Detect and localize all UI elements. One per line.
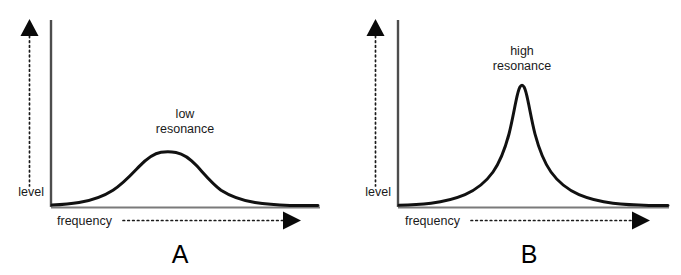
- curve-annotation-a-line1: low: [176, 107, 195, 121]
- curve-annotation-b-line2: resonance: [493, 59, 551, 73]
- resonance-curve-b: [399, 85, 668, 205]
- curve-annotation-a: lowresonance: [125, 107, 245, 137]
- y-axis-arrowhead-a: [21, 19, 39, 36]
- panel-b: level frequency highresonance B: [341, 0, 681, 275]
- y-axis-label-b: level: [347, 185, 391, 200]
- y-axis-label-a: level: [2, 185, 44, 200]
- panel-letter-b: B: [499, 240, 559, 270]
- x-axis-arrowhead-a: [283, 212, 301, 230]
- curve-annotation-b-line1: high: [510, 44, 534, 58]
- x-axis-arrowhead-b: [632, 212, 650, 230]
- curve-annotation-b: highresonance: [462, 44, 582, 74]
- y-axis-arrowhead-b: [367, 19, 385, 36]
- x-axis-label-b: frequency: [405, 214, 460, 229]
- panel-a: level frequency lowresonance A: [0, 0, 340, 275]
- panel-letter-a: A: [150, 240, 210, 270]
- curve-annotation-a-line2: resonance: [156, 122, 214, 136]
- x-axis-label-a: frequency: [57, 214, 112, 229]
- resonance-comparison-figure: level frequency lowresonance A level fre…: [0, 0, 681, 275]
- resonance-curve-a: [52, 152, 318, 206]
